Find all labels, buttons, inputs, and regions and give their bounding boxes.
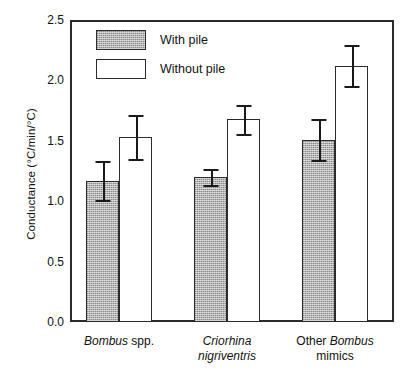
error-bar-line xyxy=(244,105,246,134)
y-tick-label: 0.0 xyxy=(30,315,64,329)
bar-chart: Conductance (°C/min/°C) 0.00.51.01.52.02… xyxy=(0,0,416,379)
error-bar-cap xyxy=(95,161,110,163)
error-bar-cap xyxy=(128,115,143,117)
error-bar-line xyxy=(103,161,105,200)
error-bar-cap xyxy=(128,159,143,161)
bar-without-pile xyxy=(227,119,260,322)
x-tick-label: Bombus spp. xyxy=(84,334,154,349)
bar-without-pile xyxy=(335,66,368,322)
x-tick-label: Other Bombusmimics xyxy=(296,334,373,363)
error-bar-cap xyxy=(236,105,251,107)
error-bar-line xyxy=(211,169,213,186)
error-bar-cap xyxy=(311,160,326,162)
error-bar-cap xyxy=(236,134,251,136)
x-axis-tick-labels: Bombus spp.CriorhinanigriventrisOther Bo… xyxy=(70,328,394,376)
y-tick-label: 0.5 xyxy=(30,255,64,269)
bar-with-pile xyxy=(302,140,335,322)
error-bar-cap xyxy=(203,169,218,171)
legend-label-with-pile: With pile xyxy=(160,33,208,47)
y-tick-label: 1.0 xyxy=(30,194,64,208)
error-bar-cap xyxy=(203,185,218,187)
legend-swatch-open xyxy=(96,59,146,79)
legend-item-without-pile: Without pile xyxy=(96,59,225,79)
legend-item-with-pile: With pile xyxy=(96,30,225,50)
y-tick-label: 1.5 xyxy=(30,134,64,148)
error-bar-cap xyxy=(95,200,110,202)
legend-swatch-filled xyxy=(96,30,146,50)
error-bar-cap xyxy=(311,119,326,121)
y-tick-label: 2.5 xyxy=(30,13,64,27)
error-bar-line xyxy=(352,45,354,86)
legend-label-without-pile: Without pile xyxy=(160,62,225,76)
error-bar-cap xyxy=(344,45,359,47)
y-axis-title: Conductance (°C/min/°C) xyxy=(25,89,37,259)
x-tick-label: Criorhinanigriventris xyxy=(198,334,256,363)
bar-with-pile xyxy=(194,177,227,322)
y-tick-label: 2.0 xyxy=(30,73,64,87)
error-bar-cap xyxy=(344,86,359,88)
error-bar-line xyxy=(319,119,321,160)
bar-without-pile xyxy=(119,137,152,322)
legend: With pile Without pile xyxy=(96,30,225,88)
error-bar-line xyxy=(136,115,138,158)
